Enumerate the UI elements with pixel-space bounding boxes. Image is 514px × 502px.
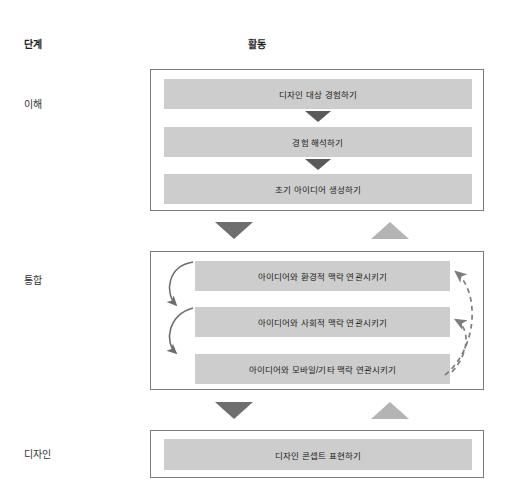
feedback-flow-arrow-icon (371, 402, 409, 419)
group-integrate: 아이디어와 환경적 맥락 연관시키기 아이디어와 사회적 맥락 연관시키기 아이… (150, 251, 484, 390)
feedback-flow-arrow-icon (371, 222, 409, 239)
activity-bar: 초기 아이디어 생성하기 (164, 174, 472, 204)
group-understand: 디자인 대상 경험하기 경험 해석하기 초기 아이디어 생성하기 (150, 69, 484, 211)
activity-bar: 아이디어와 모바일/기타 맥락 연관시키기 (195, 354, 450, 384)
activity-bar: 디자인 콘셉트 표현하기 (164, 439, 472, 470)
forward-flow-arrow-icon (215, 402, 253, 419)
forward-flow-arrow-icon (215, 222, 253, 239)
activity-bar: 아이디어와 환경적 맥락 연관시키기 (195, 261, 450, 291)
down-arrow-icon (305, 111, 331, 122)
stage-label-design: 디자인 (24, 446, 52, 461)
activity-bar: 경험 해석하기 (164, 127, 472, 157)
column-header-activity: 활동 (0, 36, 514, 51)
activity-bar: 아이디어와 사회적 맥락 연관시키기 (195, 307, 450, 337)
stage-label-integrate: 통합 (24, 272, 42, 287)
down-arrow-icon (305, 159, 331, 170)
stage-label-understand: 이해 (24, 96, 42, 111)
activity-bar: 디자인 대상 경험하기 (164, 79, 472, 109)
group-design: 디자인 콘셉트 표현하기 (150, 430, 484, 478)
